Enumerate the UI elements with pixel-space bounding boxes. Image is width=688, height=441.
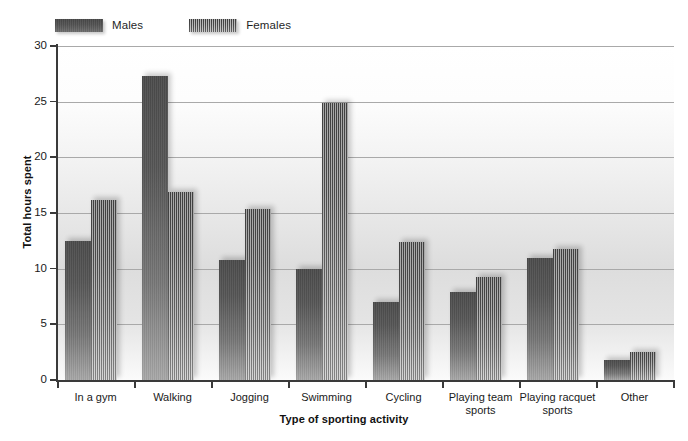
- plot-area: [57, 46, 674, 380]
- x-category-label-jogging: Jogging: [211, 391, 288, 404]
- y-tick-0: [50, 379, 57, 381]
- bar-group-playing-team-sports: [450, 46, 502, 380]
- x-tick-7: [596, 381, 598, 388]
- bar-males-cycling: [373, 302, 399, 380]
- females-swatch-icon: [189, 19, 237, 32]
- bar-group-walking: [142, 46, 194, 380]
- bar-females-other: [630, 352, 656, 380]
- y-tick-label-15: 15: [3, 206, 47, 218]
- y-tick-5: [50, 323, 57, 325]
- bar-group-other: [604, 46, 656, 380]
- x-axis-title: Type of sporting activity: [0, 413, 688, 425]
- x-category-label-swimming: Swimming: [288, 391, 365, 404]
- bar-females-in-a-gym: [91, 200, 117, 380]
- x-tick-2: [211, 381, 213, 388]
- bar-chart: Males Females Total hours spent: [0, 0, 688, 441]
- x-tick-0: [57, 381, 59, 388]
- y-tick-label-20: 20: [3, 150, 47, 162]
- legend-entry-females: Females: [189, 19, 291, 32]
- y-tick-label-10: 10: [3, 262, 47, 274]
- legend-entry-males: Males: [55, 19, 143, 32]
- bar-group-in-a-gym: [65, 46, 117, 380]
- y-tick-10: [50, 268, 57, 270]
- x-tick-6: [519, 381, 521, 388]
- x-tick-3: [288, 381, 290, 388]
- bar-group-cycling: [373, 46, 425, 380]
- bar-females-walking: [168, 192, 194, 380]
- bar-females-swimming: [322, 103, 348, 380]
- bar-males-swimming: [296, 269, 322, 380]
- bar-females-jogging: [245, 209, 271, 380]
- y-tick-label-0: 0: [3, 373, 47, 385]
- x-category-label-walking: Walking: [134, 391, 211, 404]
- x-tick-8: [673, 381, 675, 388]
- bar-group-jogging: [219, 46, 271, 380]
- x-category-label-cycling: Cycling: [365, 391, 442, 404]
- bar-group-swimming: [296, 46, 348, 380]
- x-tick-5: [442, 381, 444, 388]
- y-tick-30: [50, 45, 57, 47]
- chart-legend: Males Females: [55, 16, 337, 34]
- x-category-label-in-a-gym: In a gym: [57, 391, 134, 404]
- bar-males-other: [604, 360, 630, 380]
- bar-males-walking: [142, 76, 168, 380]
- x-tick-4: [365, 381, 367, 388]
- bar-females-playing-racquet-sports: [553, 249, 579, 380]
- bar-males-jogging: [219, 260, 245, 380]
- y-tick-15: [50, 212, 57, 214]
- bar-males-playing-team-sports: [450, 292, 476, 380]
- y-tick-20: [50, 156, 57, 158]
- bar-males-playing-racquet-sports: [527, 258, 553, 380]
- x-category-label-other: Other: [596, 391, 673, 404]
- bar-group-playing-racquet-sports: [527, 46, 579, 380]
- males-swatch-icon: [55, 19, 103, 32]
- y-axis-title: Total hours spent: [21, 122, 33, 282]
- y-tick-label-5: 5: [3, 317, 47, 329]
- bar-females-playing-team-sports: [476, 277, 502, 381]
- y-tick-label-30: 30: [3, 39, 47, 51]
- legend-label-females: Females: [246, 19, 291, 31]
- y-tick-label-25: 25: [3, 95, 47, 107]
- bar-males-in-a-gym: [65, 241, 91, 380]
- y-tick-25: [50, 101, 57, 103]
- bar-females-cycling: [399, 242, 425, 380]
- x-tick-1: [134, 381, 136, 388]
- legend-label-males: Males: [112, 19, 143, 31]
